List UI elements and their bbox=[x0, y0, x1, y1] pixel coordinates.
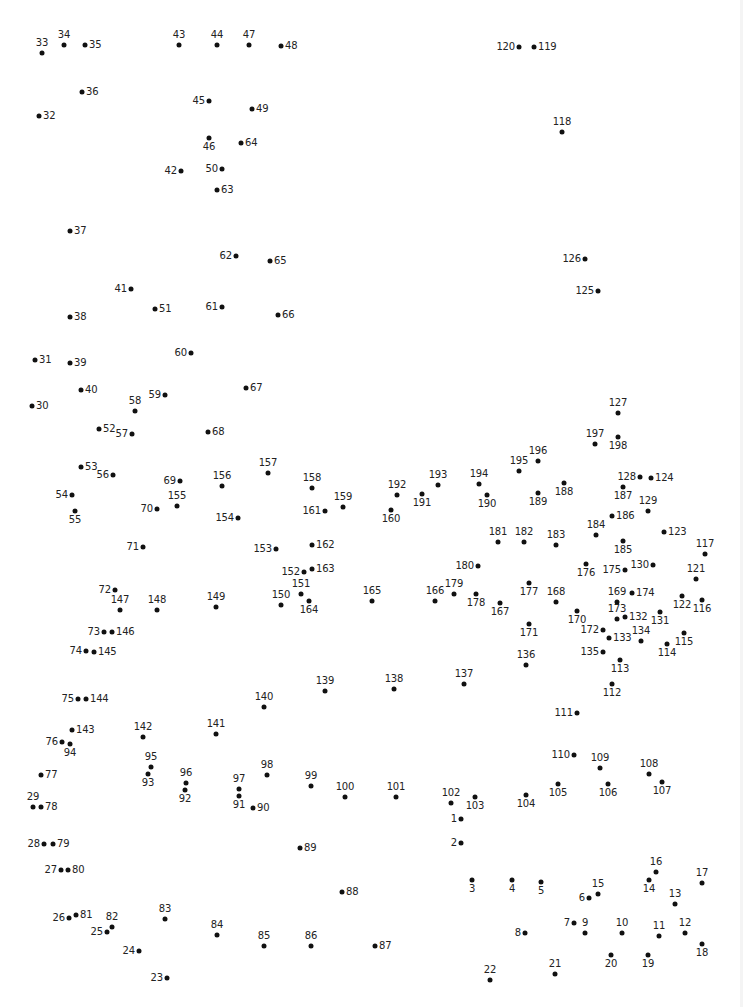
dot-number-label: 98 bbox=[261, 760, 273, 770]
dot-point bbox=[683, 931, 688, 936]
dot-point bbox=[39, 773, 44, 778]
dot-number-label: 149 bbox=[207, 592, 226, 602]
dot-number-label: 125 bbox=[575, 286, 594, 296]
dot-number-label: 71 bbox=[127, 542, 139, 552]
dot-point bbox=[79, 388, 84, 393]
dot-point bbox=[572, 753, 577, 758]
dot-point bbox=[97, 427, 102, 432]
dot-number-label: 183 bbox=[547, 530, 566, 540]
dot-number-label: 86 bbox=[305, 931, 317, 941]
dot-point bbox=[79, 465, 84, 470]
dot-number-label: 74 bbox=[70, 646, 82, 656]
dot-number-label: 102 bbox=[442, 788, 461, 798]
dot-to-dot-worksheet: 1234567891011121314151617181920212223242… bbox=[0, 0, 743, 1007]
dot-point bbox=[62, 43, 67, 48]
dot-point bbox=[340, 890, 345, 895]
dot-point bbox=[184, 781, 189, 786]
dot-number-label: 73 bbox=[88, 627, 100, 637]
dot-number-label: 131 bbox=[651, 616, 670, 626]
dot-point bbox=[262, 944, 267, 949]
dot-point bbox=[433, 599, 438, 604]
dot-point bbox=[616, 435, 621, 440]
dot-number-label: 70 bbox=[141, 504, 153, 514]
dot-number-label: 7 bbox=[564, 918, 570, 928]
dot-point bbox=[149, 765, 154, 770]
dot-point bbox=[474, 592, 479, 597]
dot-point bbox=[596, 892, 601, 897]
dot-number-label: 119 bbox=[538, 42, 557, 52]
dot-point bbox=[214, 605, 219, 610]
dot-point bbox=[42, 842, 47, 847]
dot-number-label: 96 bbox=[180, 768, 192, 778]
dot-number-label: 88 bbox=[346, 887, 358, 897]
dot-point bbox=[239, 141, 244, 146]
dot-point bbox=[137, 949, 142, 954]
dot-number-label: 24 bbox=[123, 946, 135, 956]
dot-number-label: 117 bbox=[696, 539, 715, 549]
dot-point bbox=[310, 486, 315, 491]
dot-point bbox=[178, 479, 183, 484]
dot-point bbox=[153, 307, 158, 312]
dot-point bbox=[583, 931, 588, 936]
dot-number-label: 190 bbox=[478, 499, 497, 509]
dot-point bbox=[598, 766, 603, 771]
dot-point bbox=[33, 358, 38, 363]
dot-number-label: 8 bbox=[515, 928, 521, 938]
dot-number-label: 16 bbox=[650, 857, 662, 867]
dot-number-label: 65 bbox=[274, 256, 286, 266]
dot-number-label: 186 bbox=[616, 511, 635, 521]
dot-point bbox=[477, 482, 482, 487]
dot-number-label: 141 bbox=[207, 719, 226, 729]
dot-number-label: 124 bbox=[655, 473, 674, 483]
dot-number-label: 180 bbox=[455, 561, 474, 571]
dot-number-label: 182 bbox=[515, 527, 534, 537]
dot-point bbox=[575, 711, 580, 716]
dot-point bbox=[220, 305, 225, 310]
dot-point bbox=[452, 592, 457, 597]
dot-number-label: 134 bbox=[632, 626, 651, 636]
dot-point bbox=[247, 43, 252, 48]
dot-point bbox=[214, 732, 219, 737]
dot-number-label: 137 bbox=[455, 669, 474, 679]
dot-point bbox=[395, 493, 400, 498]
dot-point bbox=[183, 788, 188, 793]
dot-number-label: 76 bbox=[46, 737, 58, 747]
dot-number-label: 63 bbox=[221, 185, 233, 195]
dot-number-label: 1 bbox=[451, 814, 457, 824]
dot-number-label: 158 bbox=[303, 473, 322, 483]
dot-number-label: 150 bbox=[272, 590, 291, 600]
dot-point bbox=[694, 577, 699, 582]
dot-number-label: 31 bbox=[39, 355, 51, 365]
dot-point bbox=[610, 514, 615, 519]
dot-number-label: 82 bbox=[106, 912, 118, 922]
dot-point bbox=[527, 581, 532, 586]
dot-point bbox=[220, 484, 225, 489]
dot-number-label: 193 bbox=[429, 470, 448, 480]
dot-number-label: 2 bbox=[451, 838, 457, 848]
dot-number-label: 177 bbox=[520, 587, 539, 597]
dot-point bbox=[560, 130, 565, 135]
dot-number-label: 187 bbox=[614, 491, 633, 501]
dot-point bbox=[80, 90, 85, 95]
dot-number-label: 142 bbox=[134, 722, 153, 732]
dot-number-label: 3 bbox=[469, 884, 475, 894]
dot-number-label: 155 bbox=[168, 491, 187, 501]
dot-point bbox=[310, 567, 315, 572]
dot-point bbox=[621, 485, 626, 490]
dot-number-label: 38 bbox=[74, 312, 86, 322]
dot-point bbox=[70, 493, 75, 498]
dot-point bbox=[517, 45, 522, 50]
dot-number-label: 103 bbox=[466, 801, 485, 811]
dot-number-label: 143 bbox=[76, 725, 95, 735]
dot-number-label: 41 bbox=[115, 284, 127, 294]
dot-point bbox=[68, 229, 73, 234]
dot-number-label: 169 bbox=[608, 587, 627, 597]
dot-point bbox=[175, 504, 180, 509]
dot-number-label: 29 bbox=[27, 792, 39, 802]
dot-number-label: 167 bbox=[491, 607, 510, 617]
dot-number-label: 127 bbox=[609, 398, 628, 408]
dot-point bbox=[307, 599, 312, 604]
dot-number-label: 115 bbox=[675, 637, 694, 647]
dot-number-label: 95 bbox=[145, 752, 157, 762]
dot-number-label: 21 bbox=[549, 959, 561, 969]
